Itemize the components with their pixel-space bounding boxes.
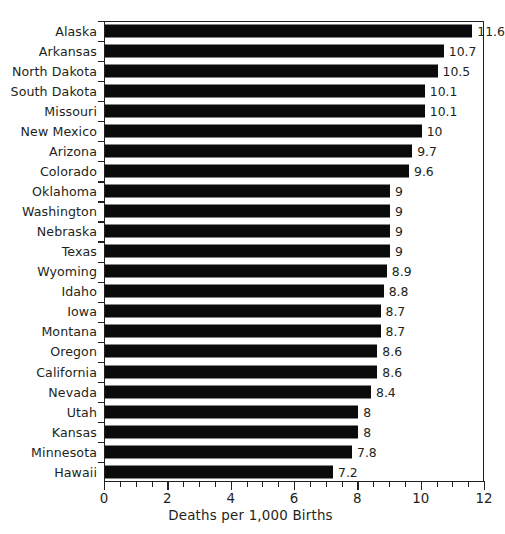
bar-value-label: 9 (395, 204, 403, 219)
bar (105, 285, 384, 298)
x-tick-minor (389, 482, 390, 487)
bar-value-label: 8 (363, 404, 371, 419)
bar-value-label: 8.4 (376, 384, 396, 399)
x-tick-major (421, 482, 422, 490)
bar (105, 305, 381, 318)
category-label: Minnesota (31, 444, 97, 459)
bar-row: North Dakota10.5 (0, 61, 501, 81)
category-label: Arizona (49, 144, 97, 159)
x-tick-minor (120, 482, 121, 487)
bar-row: Wyoming8.9 (0, 262, 501, 282)
y-axis-tick (98, 422, 104, 423)
x-tick-minor (373, 482, 374, 487)
category-label: Kansas (52, 424, 97, 439)
x-tick-minor (342, 482, 343, 487)
category-label: Montana (41, 324, 97, 339)
bar-value-label: 8.6 (382, 364, 402, 379)
y-axis-tick (98, 101, 104, 102)
y-axis-tick (98, 81, 104, 82)
x-tick-major (294, 482, 295, 490)
bar-value-label: 8.7 (386, 324, 406, 339)
bar-row: Nebraska9 (0, 221, 501, 241)
category-label: Nevada (48, 384, 97, 399)
bar-value-label: 8.6 (382, 344, 402, 359)
bar-row: Iowa8.7 (0, 302, 501, 322)
y-axis-tick (98, 141, 104, 142)
bar-row: Hawaii7.2 (0, 462, 501, 482)
bar (105, 44, 444, 57)
bar (105, 385, 371, 398)
x-tick-label: 4 (226, 491, 235, 506)
y-axis-tick (98, 21, 104, 22)
x-tick-major (167, 482, 168, 490)
y-axis-tick (98, 382, 104, 383)
y-axis-tick (98, 181, 104, 182)
x-tick-minor (199, 482, 200, 487)
bar (105, 245, 390, 258)
x-tick-major (104, 482, 105, 490)
x-tick-label: 2 (163, 491, 172, 506)
category-label: Alaska (55, 23, 97, 38)
category-label: Arkansas (39, 43, 97, 58)
y-axis-tick (98, 161, 104, 162)
category-label: Colorado (40, 164, 97, 179)
bar (105, 24, 472, 37)
bar-row: Arkansas10.7 (0, 41, 501, 61)
bar-value-label: 9.6 (414, 164, 434, 179)
category-label: Washington (22, 204, 97, 219)
category-label: Oklahoma (32, 184, 97, 199)
bar (105, 405, 358, 418)
category-label: Utah (67, 404, 97, 419)
bar (105, 185, 390, 198)
y-axis-tick (98, 61, 104, 62)
bar (105, 125, 422, 138)
bar-value-label: 9 (395, 224, 403, 239)
x-tick-minor (247, 482, 248, 487)
bar-value-label: 10 (427, 124, 443, 139)
bar-value-label: 8 (363, 424, 371, 439)
bar-value-label: 10.7 (449, 43, 477, 58)
x-tick-label: 6 (290, 491, 299, 506)
bar-row: Oregon8.6 (0, 342, 501, 362)
y-axis-tick (98, 221, 104, 222)
x-tick-major (357, 482, 358, 490)
y-axis-tick (98, 121, 104, 122)
bar-value-label: 7.2 (338, 464, 358, 479)
bar-value-label: 10.1 (430, 103, 458, 118)
y-axis-tick (98, 41, 104, 42)
y-axis-tick (98, 262, 104, 263)
bar-value-label: 8.7 (386, 304, 406, 319)
bar (105, 104, 425, 117)
bar (105, 84, 425, 97)
category-label: South Dakota (11, 83, 97, 98)
bar-rows: Alaska11.6Arkansas10.7North Dakota10.5So… (0, 21, 501, 482)
bar-row: Montana8.7 (0, 322, 501, 342)
bar-value-label: 8.8 (389, 284, 409, 299)
x-tick-minor (468, 482, 469, 487)
y-axis-tick (98, 302, 104, 303)
bar-row: Washington9 (0, 201, 501, 221)
bar (105, 325, 381, 338)
bar-row: Missouri10.1 (0, 101, 501, 121)
bar-row: Nevada8.4 (0, 382, 501, 402)
category-label: Iowa (67, 304, 97, 319)
category-label: Nebraska (37, 224, 97, 239)
bar-row: California8.6 (0, 362, 501, 382)
category-label: Idaho (61, 284, 97, 299)
x-tick-label: 10 (412, 491, 429, 506)
y-axis-tick (98, 362, 104, 363)
x-tick-label: 12 (475, 491, 492, 506)
x-axis-ticks: 024681012 (0, 482, 501, 494)
x-tick-minor (136, 482, 137, 487)
bar (105, 205, 390, 218)
bar-value-label: 11.6 (477, 23, 505, 38)
y-axis-tick (98, 282, 104, 283)
bar-row: New Mexico10 (0, 121, 501, 141)
x-tick-label: 8 (353, 491, 362, 506)
x-tick-major (484, 482, 485, 490)
bar-row: Texas9 (0, 241, 501, 261)
x-tick-minor (437, 482, 438, 487)
bar-value-label: 9 (395, 184, 403, 199)
y-axis-tick (98, 322, 104, 323)
